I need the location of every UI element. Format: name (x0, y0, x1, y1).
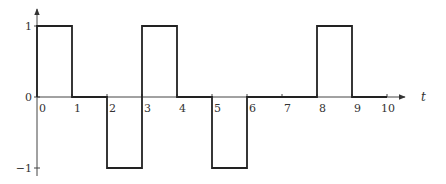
x-tick-label: 10 (381, 102, 395, 115)
x-tick-label: 0 (39, 102, 46, 115)
x-tick-label: 5 (214, 102, 221, 115)
x-tick-label: 8 (319, 102, 326, 115)
x-tick-label: 6 (249, 102, 256, 115)
y-tick-label: −1 (16, 162, 32, 175)
x-axis-label: t (421, 90, 426, 104)
y-tick-label: 1 (25, 20, 32, 33)
x-tick-label: 9 (354, 102, 361, 115)
x-tick-label: 4 (179, 102, 186, 115)
x-tick-label: 2 (109, 102, 116, 115)
x-tick-label: 7 (284, 102, 291, 115)
chart-canvas: 10−1 012345678910 t (0, 0, 446, 184)
x-tick-label: 3 (144, 102, 151, 115)
y-tick-label: 0 (25, 91, 32, 104)
x-tick-label: 1 (74, 102, 81, 115)
